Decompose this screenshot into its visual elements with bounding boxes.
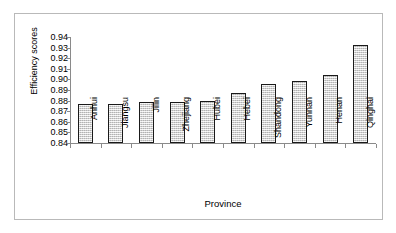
y-tick-mark — [67, 79, 71, 80]
x-tick-mark — [376, 144, 377, 148]
y-tick-label: 0.84 — [50, 139, 68, 147]
x-tick-label: Jiangsu — [120, 97, 130, 147]
x-tick-label: Henan — [334, 97, 344, 147]
y-tick-mark — [67, 101, 71, 102]
y-axis-tick-labels: 0.940.930.920.910.900.890.880.870.860.85… — [38, 33, 68, 143]
y-tick-label: 0.93 — [50, 44, 68, 52]
x-tick-label: Zhejiang — [181, 97, 191, 147]
y-tick-mark — [67, 37, 71, 38]
x-tick-label: Anhui — [89, 97, 99, 147]
y-tick-label: 0.94 — [50, 33, 68, 41]
y-tick-mark — [67, 48, 71, 49]
y-tick-mark — [67, 122, 71, 123]
y-tick-label: 0.92 — [50, 54, 68, 62]
y-tick-mark — [67, 132, 71, 133]
y-tick-label: 0.85 — [50, 128, 68, 136]
x-tick-label: Jilin — [151, 97, 161, 147]
y-tick-label: 0.88 — [50, 97, 68, 105]
y-tick-mark — [67, 90, 71, 91]
x-tick-label: Yunnan — [304, 97, 314, 147]
y-tick-label: 0.86 — [50, 118, 68, 126]
bar-series — [70, 37, 376, 143]
y-tick-mark — [67, 111, 71, 112]
y-tick-label: 0.91 — [50, 65, 68, 73]
plot-area — [70, 37, 376, 143]
x-tick-label: Qinghai — [365, 97, 375, 147]
x-tick-label: Hubei — [212, 97, 222, 147]
x-tick-label: Hebei — [242, 97, 252, 147]
x-axis-tick-labels: AnhuiJiangsuJilinZhejiangHubeiHebeiShand… — [70, 147, 376, 197]
y-tick-mark — [67, 69, 71, 70]
x-axis-title: Province — [70, 198, 376, 209]
x-tick-label: Shandong — [273, 97, 283, 147]
y-tick-label: 0.87 — [50, 107, 68, 115]
efficiency-scores-bar-chart: Efficiency scores 0.940.930.920.910.900.… — [0, 0, 396, 233]
y-tick-mark — [67, 58, 71, 59]
y-tick-label: 0.89 — [50, 86, 68, 94]
y-tick-label: 0.90 — [50, 75, 68, 83]
